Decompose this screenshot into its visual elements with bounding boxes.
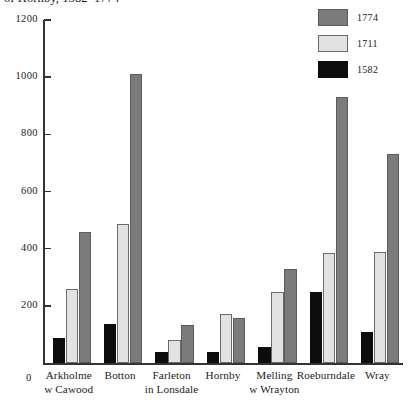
- x-label-line1-6: Wray: [365, 369, 390, 381]
- x-axis-line: [43, 363, 403, 365]
- bar-1774-6: [387, 154, 399, 363]
- y-tick-label-1200: 1200: [2, 13, 38, 24]
- bar-1711-0: [66, 289, 78, 363]
- y-tick-400: [44, 248, 51, 250]
- plot-area: [43, 20, 403, 363]
- bar-1582-5: [310, 292, 322, 363]
- y-tick-200: [44, 305, 51, 307]
- x-label-line2-0: w Cawood: [29, 382, 108, 396]
- y-tick-label-1000: 1000: [2, 70, 38, 81]
- bar-1774-2: [181, 325, 193, 363]
- bar-1774-4: [284, 269, 296, 363]
- bar-1582-6: [361, 332, 373, 363]
- y-tick-label-400: 400: [2, 242, 38, 253]
- chart-title: of Hornby, 1582–1774: [4, 0, 119, 6]
- bar-1582-2: [155, 352, 167, 363]
- bar-1582-0: [53, 338, 65, 363]
- y-tick-label-200: 200: [2, 299, 38, 310]
- x-label-6: Wray: [338, 368, 412, 382]
- bar-1774-3: [233, 318, 245, 363]
- y-tick-label-600: 600: [2, 185, 38, 196]
- bar-1582-1: [104, 324, 116, 363]
- y-tick-600: [44, 191, 51, 193]
- x-label-line2-2: in Lonsdale: [132, 382, 211, 396]
- y-tick-label-800: 800: [2, 127, 38, 138]
- bar-1774-5: [336, 97, 348, 363]
- bar-1711-2: [168, 340, 180, 363]
- bar-1582-4: [258, 347, 270, 363]
- bar-1711-1: [117, 224, 129, 363]
- bar-1774-0: [79, 232, 91, 363]
- y-tick-800: [44, 134, 51, 136]
- x-label-line2-4: w Wrayton: [235, 382, 314, 396]
- y-tick-1200: [44, 19, 51, 21]
- bar-1774-1: [130, 74, 142, 363]
- bar-chart: of Hornby, 1582–1774 1774 1711 1582 0 20…: [0, 0, 412, 400]
- bar-1582-3: [207, 352, 219, 363]
- bar-1711-6: [374, 252, 386, 363]
- y-tick-1000: [44, 76, 51, 78]
- x-axis-category-labels: Arkholmew CawoodBottonFarletonin Lonsdal…: [0, 368, 412, 400]
- bar-1711-3: [220, 314, 232, 363]
- bar-1711-4: [271, 292, 283, 363]
- bar-1711-5: [323, 253, 335, 363]
